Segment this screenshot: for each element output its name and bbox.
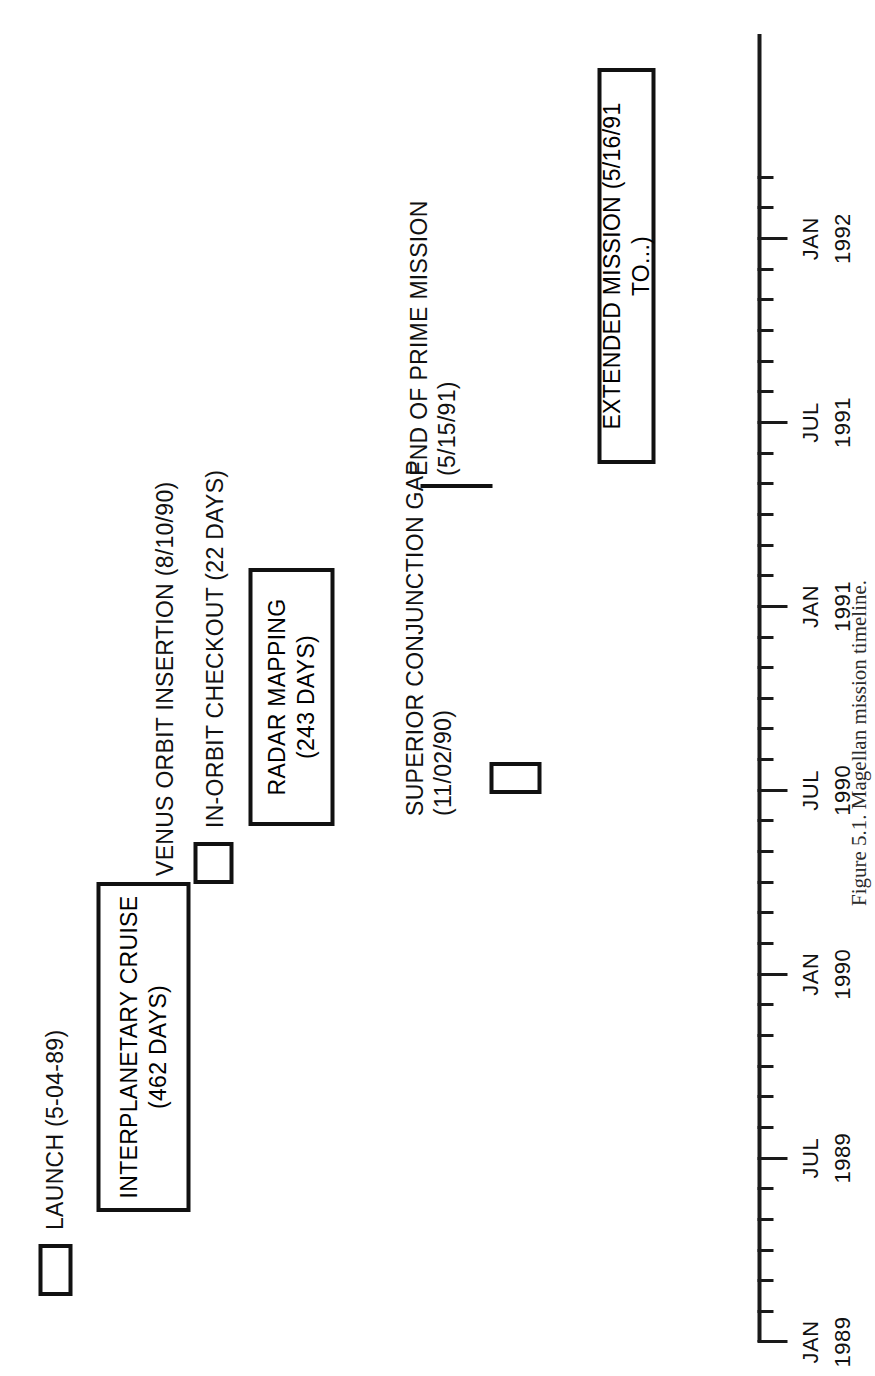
axis-tick-minor — [757, 298, 773, 301]
timeline-figure: JAN1989JUL1989JAN1990JUL1990JAN1991JUL19… — [0, 0, 875, 1376]
axis-tick-minor — [757, 1218, 773, 1221]
event-box-interplanetary-cruise[interactable]: INTERPLANETARY CRUISE (462 DAYS) — [96, 882, 190, 1212]
event-label-in-orbit-checkout: IN-ORBIT CHECKOUT (22 DAYS) — [200, 470, 228, 828]
axis-tick-minor — [757, 329, 773, 332]
axis-tick-label-year: 1991 — [829, 378, 855, 468]
axis-tick-label-month: JUL — [797, 1113, 823, 1203]
axis-tick-minor — [757, 206, 773, 209]
event-label-launch: LAUNCH (5-04-89) — [40, 1030, 68, 1230]
event-box-radar-mapping[interactable]: RADAR MAPPING (243 DAYS) — [248, 568, 334, 826]
event-label-radar-mapping-line2: (243 DAYS) — [291, 635, 320, 759]
axis-tick-minor — [757, 636, 773, 639]
axis-tick-minor — [757, 850, 773, 853]
axis-tick-minor — [757, 360, 773, 363]
axis-tick-label-year: 1990 — [829, 929, 855, 1019]
axis-tick-label-year: 1989 — [829, 1297, 855, 1376]
axis-tick-minor — [757, 1095, 773, 1098]
axis-tick-minor — [757, 176, 773, 179]
axis-tick-label: JAN1989 — [797, 1297, 855, 1376]
axis-tick-label-month: JUL — [797, 378, 823, 468]
event-box-launch[interactable] — [38, 1244, 72, 1296]
axis-tick-major — [757, 237, 787, 240]
event-box-superior-conjunction-gap[interactable] — [489, 762, 541, 794]
axis-tick-minor — [757, 697, 773, 700]
axis-tick-minor — [757, 758, 773, 761]
axis-tick-major — [757, 1157, 787, 1160]
axis-tick-label: JUL1989 — [797, 1113, 855, 1203]
axis-tick-minor — [757, 1187, 773, 1190]
axis-tick-minor — [757, 881, 773, 884]
event-label-extended-mission: EXTENDED MISSION (5/16/91 TO...) — [597, 72, 655, 460]
axis-tick-label: JAN1990 — [797, 929, 855, 1019]
event-box-extended-mission[interactable]: EXTENDED MISSION (5/16/91 TO...) — [597, 68, 655, 464]
event-label-superior-conjunction-gap: SUPERIOR CONJUNCTION GAP (11/02/90) — [400, 396, 456, 816]
figure-caption: Figure 5.1. Magellan mission timeline. — [846, 580, 871, 906]
axis-tick-minor — [757, 544, 773, 547]
axis-tick-minor — [757, 574, 773, 577]
axis-tick-minor — [757, 1249, 773, 1252]
axis-tick-minor — [757, 666, 773, 669]
axis-tick-minor — [757, 513, 773, 516]
axis-tick-minor — [757, 482, 773, 485]
axis-tick-major — [757, 421, 787, 424]
axis-tick-minor — [757, 1310, 773, 1313]
axis-tick-label-month: JAN — [797, 1297, 823, 1376]
axis-tick-label-month: JUL — [797, 745, 823, 835]
axis-tick-minor — [757, 728, 773, 731]
axis-tick-minor — [757, 1034, 773, 1037]
axis-tick-major — [757, 1341, 787, 1344]
axis-tick-minor — [757, 911, 773, 914]
event-box-in-orbit-checkout[interactable] — [193, 842, 233, 884]
axis-tick-minor — [757, 268, 773, 271]
axis-tick-label-month: JAN — [797, 194, 823, 284]
axis-tick-minor — [757, 452, 773, 455]
event-label-venus-orbit-insertion: VENUS ORBIT INSERTION (8/10/90) — [150, 482, 178, 876]
axis-tick-major — [757, 973, 787, 976]
axis-tick-minor — [757, 390, 773, 393]
axis-tick-minor — [757, 1279, 773, 1282]
event-label-radar-mapping-line1: RADAR MAPPING — [262, 599, 291, 796]
axis-tick-major — [757, 789, 787, 792]
event-label-superior-conjunction-gap-line2: (11/02/90) — [428, 396, 456, 816]
axis-tick-minor — [757, 819, 773, 822]
axis-tick-label: JUL1991 — [797, 378, 855, 468]
event-label-interplanetary-cruise-line2: (462 DAYS) — [143, 985, 172, 1109]
axis-tick-label-year: 1992 — [829, 194, 855, 284]
axis-tick-minor — [757, 1003, 773, 1006]
axis-tick-label-month: JAN — [797, 929, 823, 1019]
timeline-axis — [757, 34, 761, 1342]
axis-tick-label: JAN1992 — [797, 194, 855, 284]
event-label-interplanetary-cruise-line1: INTERPLANETARY CRUISE — [114, 896, 143, 1199]
axis-tick-minor — [757, 942, 773, 945]
axis-tick-minor — [757, 1126, 773, 1129]
axis-tick-label-month: JAN — [797, 561, 823, 651]
axis-tick-major — [757, 605, 787, 608]
axis-tick-minor — [757, 1065, 773, 1068]
axis-tick-label-year: 1989 — [829, 1113, 855, 1203]
event-label-superior-conjunction-gap-line1: SUPERIOR CONJUNCTION GAP — [400, 396, 428, 816]
